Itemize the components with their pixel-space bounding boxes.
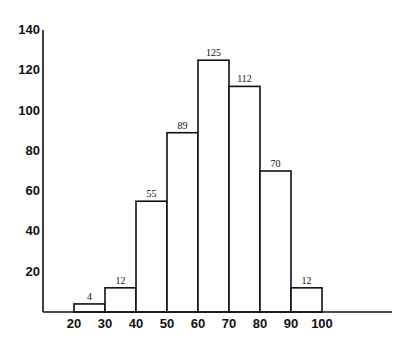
bar-value-label: 55: [147, 188, 157, 199]
y-tick-label: 120: [18, 62, 40, 77]
histogram-chart: 20406080100120140 41255891251127012 2030…: [0, 0, 407, 343]
x-axis-tick-labels: 2030405060708090100: [67, 316, 333, 331]
histogram-bar: [105, 288, 136, 312]
y-tick-label: 60: [26, 183, 40, 198]
histogram-bar: [198, 60, 229, 312]
histogram-bars: [74, 60, 322, 312]
bar-value-label: 125: [206, 47, 221, 58]
x-tick-label: 90: [284, 316, 298, 331]
histogram-bar: [229, 86, 260, 312]
y-tick-label: 40: [26, 223, 40, 238]
bar-value-label: 12: [116, 275, 126, 286]
bar-value-label: 4: [87, 291, 92, 302]
bar-value-label: 12: [302, 275, 312, 286]
histogram-bar: [167, 133, 198, 312]
histogram-bar: [291, 288, 322, 312]
bar-value-label: 112: [237, 73, 252, 84]
histogram-bar: [260, 171, 291, 312]
bar-value-label: 70: [271, 158, 281, 169]
x-tick-label: 70: [222, 316, 236, 331]
y-axis-tick-labels: 20406080100120140: [18, 22, 40, 279]
bar-value-label: 89: [178, 120, 188, 131]
x-tick-label: 50: [160, 316, 174, 331]
histogram-bar: [74, 304, 105, 312]
y-tick-label: 20: [26, 264, 40, 279]
y-tick-label: 140: [18, 22, 40, 37]
y-tick-label: 100: [18, 103, 40, 118]
x-tick-label: 60: [191, 316, 205, 331]
x-tick-label: 20: [67, 316, 81, 331]
x-tick-label: 80: [253, 316, 267, 331]
histogram-bar: [136, 201, 167, 312]
y-tick-label: 80: [26, 143, 40, 158]
x-tick-label: 30: [98, 316, 112, 331]
x-tick-label: 40: [129, 316, 143, 331]
x-tick-label: 100: [311, 316, 333, 331]
